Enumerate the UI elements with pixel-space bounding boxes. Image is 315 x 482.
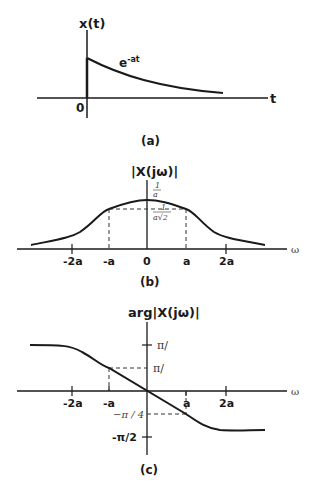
svg-text:2a: 2a bbox=[219, 255, 234, 268]
x-label: ω bbox=[291, 386, 299, 397]
svg-text:1: 1 bbox=[155, 181, 160, 190]
curve-label: e-at bbox=[119, 55, 140, 70]
caption-c: (c) bbox=[140, 463, 158, 477]
svg-text:a√2: a√2 bbox=[153, 213, 168, 222]
decay-curve bbox=[87, 58, 223, 93]
y-label: |X(jω)| bbox=[131, 164, 178, 179]
svg-text:-π/2: -π/2 bbox=[112, 431, 137, 444]
svg-text:-a: -a bbox=[103, 255, 115, 268]
magnitude-curve bbox=[31, 200, 265, 245]
panel-a: x(t) t 0 e-at (a) bbox=[37, 16, 276, 148]
svg-text:π/: π/ bbox=[157, 339, 168, 352]
origin-label: 0 bbox=[76, 101, 84, 115]
svg-text:2a: 2a bbox=[219, 397, 234, 410]
svg-text:-a: -a bbox=[103, 397, 115, 410]
svg-text:a: a bbox=[183, 255, 190, 268]
x-label: ω bbox=[291, 244, 299, 255]
x-label: t bbox=[270, 91, 276, 106]
svg-text:a: a bbox=[183, 397, 190, 410]
y-label: x(t) bbox=[79, 16, 105, 31]
caption-b: (b) bbox=[140, 275, 160, 289]
svg-text:a: a bbox=[153, 190, 158, 199]
caption-a: (a) bbox=[141, 134, 160, 148]
svg-text:−π / 4: −π / 4 bbox=[113, 409, 144, 420]
figure: x(t) t 0 e-at (a) |X(jω)| ω 1 a 1 a√2 -2… bbox=[0, 0, 315, 482]
y-label: arg|X(jω)| bbox=[128, 305, 200, 320]
panel-c: arg|X(jω)| ω π/ π/ −π / 4 -π/2 -2a -a a … bbox=[17, 305, 299, 477]
svg-text:π/: π/ bbox=[153, 362, 164, 375]
panel-b: |X(jω)| ω 1 a 1 a√2 -2a -a 0 a 2a (b) bbox=[17, 164, 299, 289]
svg-text:1: 1 bbox=[161, 203, 166, 212]
svg-text:0: 0 bbox=[143, 255, 151, 268]
svg-text:-2a: -2a bbox=[63, 255, 83, 268]
svg-text:-2a: -2a bbox=[63, 397, 83, 410]
